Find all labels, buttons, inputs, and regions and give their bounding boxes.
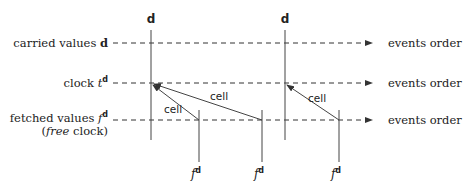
fetch-label-f3: fd [330, 166, 341, 181]
column-label-d2: d [281, 12, 290, 26]
row-label-carried: carried values d [13, 36, 108, 50]
fetch-label-f2: fd [253, 166, 264, 181]
clock-diagram: carried values d clock td fetched values… [0, 0, 470, 190]
events-order-label-clock: events order [388, 76, 462, 90]
fetch-label-f1: fd [190, 166, 201, 181]
cell-label-2: cell [210, 90, 228, 102]
column-label-d1: d [147, 12, 156, 26]
row-sublabel-free-clock: (free clock) [42, 124, 108, 138]
events-order-label-carried: events order [388, 36, 462, 50]
row-label-fetched: fetched values fd [10, 110, 108, 125]
cell-label-1: cell [164, 103, 182, 115]
cell-label-3: cell [308, 92, 326, 104]
row-label-clock: clock td [64, 75, 109, 90]
events-order-label-fetched: events order [388, 113, 462, 127]
